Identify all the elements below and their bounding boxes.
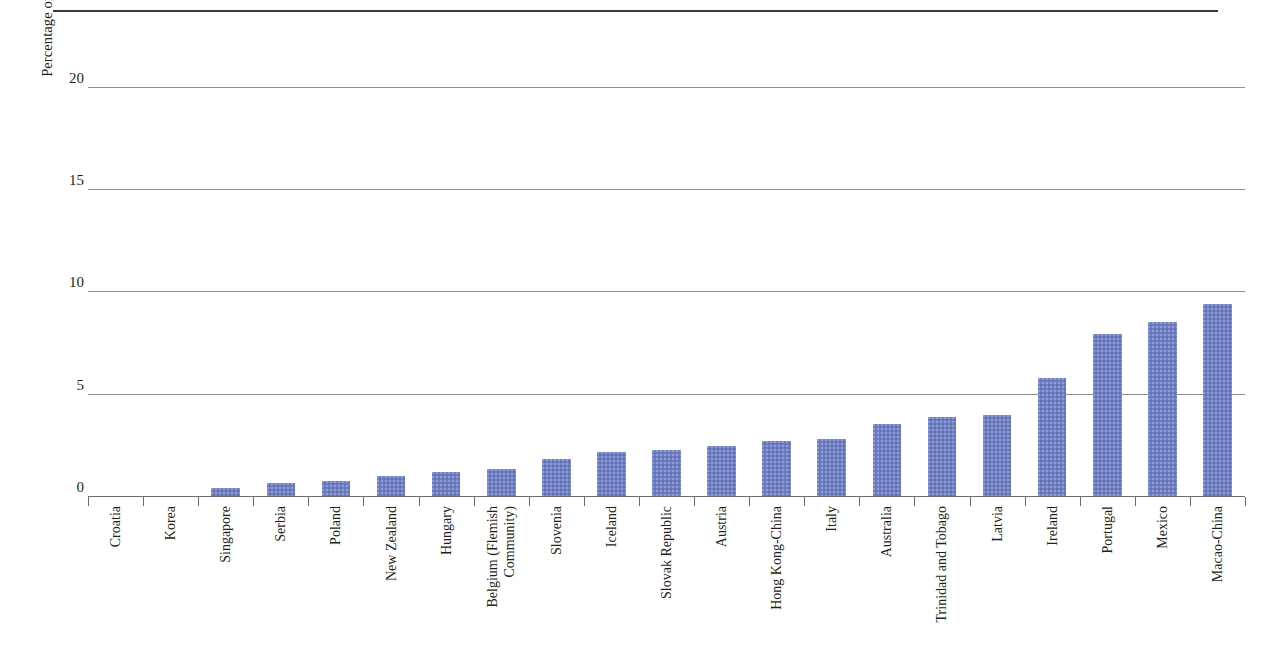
x-axis-label: Serbia [272, 506, 324, 656]
x-label-line: Iceland [603, 506, 620, 656]
y-tick-label-20: 20 [50, 71, 84, 86]
x-tick [308, 497, 309, 506]
x-label-line: Community) [501, 506, 518, 656]
x-label-line: Slovenia [548, 506, 565, 656]
bar [1038, 378, 1067, 496]
bar [542, 459, 571, 496]
x-label-line: Hungary [438, 506, 455, 656]
x-axis-ticks [88, 497, 1248, 506]
x-label-line: Korea [162, 506, 179, 656]
x-tick [363, 497, 364, 506]
bar [817, 439, 846, 496]
y-tick-label-15: 15 [50, 173, 84, 188]
x-axis-label: Hong Kong-China [768, 506, 820, 656]
top-rule-divider [53, 10, 1218, 12]
x-axis-labels: CroatiaKoreaSingaporeSerbiaPolandNew Zea… [88, 506, 1248, 656]
x-tick [1245, 497, 1246, 506]
x-axis-label: Iceland [603, 506, 655, 656]
x-label-line: Italy [823, 506, 840, 656]
bar [432, 472, 461, 496]
x-axis-label: Slovak Republic [658, 506, 710, 656]
x-tick [1190, 497, 1191, 506]
x-tick [584, 497, 585, 506]
x-axis-label: Singapore [217, 506, 269, 656]
x-axis-label: New Zealand [383, 506, 435, 656]
x-axis-label: Macao-China [1209, 506, 1261, 656]
x-tick [639, 497, 640, 506]
x-label-line: New Zealand [383, 506, 400, 656]
x-axis-label: Croatia [107, 506, 159, 656]
x-label-line: Australia [878, 506, 895, 656]
x-tick [88, 497, 89, 506]
bar [377, 476, 406, 496]
x-label-line: Croatia [107, 506, 124, 656]
x-label-line: Austria [713, 506, 730, 656]
bar [487, 469, 516, 496]
x-tick [804, 497, 805, 506]
x-axis-label: Trinidad and Tobago [933, 506, 985, 656]
bar [322, 481, 351, 496]
x-label-line: Trinidad and Tobago [933, 506, 950, 656]
x-tick [1135, 497, 1136, 506]
x-axis-label: Poland [327, 506, 379, 656]
bar-series [88, 56, 1245, 496]
x-tick [859, 497, 860, 506]
y-axis-title: Percentage of students who do not expect… [0, 0, 44, 128]
x-label-line: Ireland [1044, 506, 1061, 656]
bar [267, 483, 296, 496]
x-tick [914, 497, 915, 506]
x-label-line: Macao-China [1209, 506, 1226, 656]
x-axis-label: Portugal [1099, 506, 1151, 656]
x-tick [253, 497, 254, 506]
bar [1093, 334, 1122, 496]
x-axis-label: Hungary [438, 506, 490, 656]
x-tick [694, 497, 695, 506]
x-axis-label: Ireland [1044, 506, 1096, 656]
y-tick-label-0: 0 [50, 480, 84, 495]
x-axis-label: Slovenia [548, 506, 600, 656]
x-tick [143, 497, 144, 506]
x-tick [529, 497, 530, 506]
x-tick [474, 497, 475, 506]
bar [211, 488, 240, 496]
x-label-line: Poland [327, 506, 344, 656]
plot-area [88, 56, 1245, 496]
x-tick [970, 497, 971, 506]
x-label-line: Belgium (Flemish [484, 506, 501, 656]
x-label-line: Latvia [989, 506, 1006, 656]
x-axis-label: Austria [713, 506, 765, 656]
bar [597, 452, 626, 496]
x-tick [749, 497, 750, 506]
bar [873, 424, 902, 496]
bar [762, 441, 791, 496]
x-axis-label: Belgium (FlemishCommunity) [484, 506, 536, 656]
x-tick [1025, 497, 1026, 506]
x-axis-label: Australia [878, 506, 930, 656]
y-tick-label-10: 10 [50, 275, 84, 290]
x-axis-label: Korea [162, 506, 214, 656]
x-label-line: Serbia [272, 506, 289, 656]
x-tick [419, 497, 420, 506]
chart-figure: Percentage of students who do not expect… [0, 0, 1275, 671]
x-label-line: Mexico [1154, 506, 1171, 656]
bar [707, 446, 736, 496]
x-label-line: Slovak Republic [658, 506, 675, 656]
bar [983, 415, 1012, 496]
y-tick-label-5: 5 [50, 378, 84, 393]
bar [1203, 304, 1232, 496]
x-label-line: Singapore [217, 506, 234, 656]
x-label-line: Portugal [1099, 506, 1116, 656]
x-label-line: Hong Kong-China [768, 506, 785, 656]
bar [1148, 322, 1177, 496]
x-tick [198, 497, 199, 506]
x-axis-label: Latvia [989, 506, 1041, 656]
x-axis-label: Italy [823, 506, 875, 656]
bar [652, 450, 681, 496]
x-tick [1080, 497, 1081, 506]
y-axis-tick-labels: 05101520 [44, 56, 84, 496]
x-axis-label: Mexico [1154, 506, 1206, 656]
bar [928, 417, 957, 496]
